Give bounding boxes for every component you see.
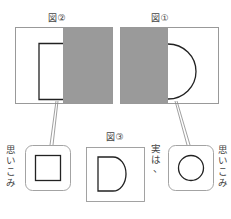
left-char-4: み	[6, 177, 16, 188]
bubble-frame-left	[26, 146, 71, 191]
figure-3: 図③	[87, 132, 145, 202]
right-vertical-text: 思 い こ み	[218, 144, 228, 188]
left-char-2: い	[6, 155, 16, 166]
left-char-3: こ	[6, 166, 16, 177]
figure-1-gray-panel	[121, 28, 168, 103]
pointer-line-right-2	[177, 101, 190, 145]
figure-2-label: 図②	[48, 13, 65, 23]
left-vertical-text: 思 い こ み	[6, 144, 16, 188]
figure-1: 図①	[121, 13, 219, 104]
middle-char-3: 、	[153, 163, 163, 174]
figure-1-label: 図①	[151, 13, 168, 23]
figure-3-label: 図③	[106, 132, 123, 142]
figure-2: 図②	[16, 13, 113, 104]
right-char-1: 思	[218, 144, 228, 155]
right-char-3: こ	[218, 166, 228, 177]
perception-diagram: 図② 図① 図③ 思 い こ み 実 は 、	[0, 0, 231, 219]
right-char-2: い	[218, 155, 228, 166]
middle-char-1: 実	[151, 143, 161, 154]
figure-2-gray-panel	[63, 28, 112, 103]
pointer-line-right	[175, 101, 187, 145]
left-char-1: 思	[6, 144, 16, 155]
figure-3-frame	[87, 148, 145, 202]
middle-vertical-text: 実 は 、	[151, 143, 163, 174]
assumption-bubble-right	[169, 146, 214, 191]
bubble-frame-right	[169, 146, 214, 191]
right-char-4: み	[218, 177, 228, 188]
assumption-bubble-left	[26, 146, 71, 191]
